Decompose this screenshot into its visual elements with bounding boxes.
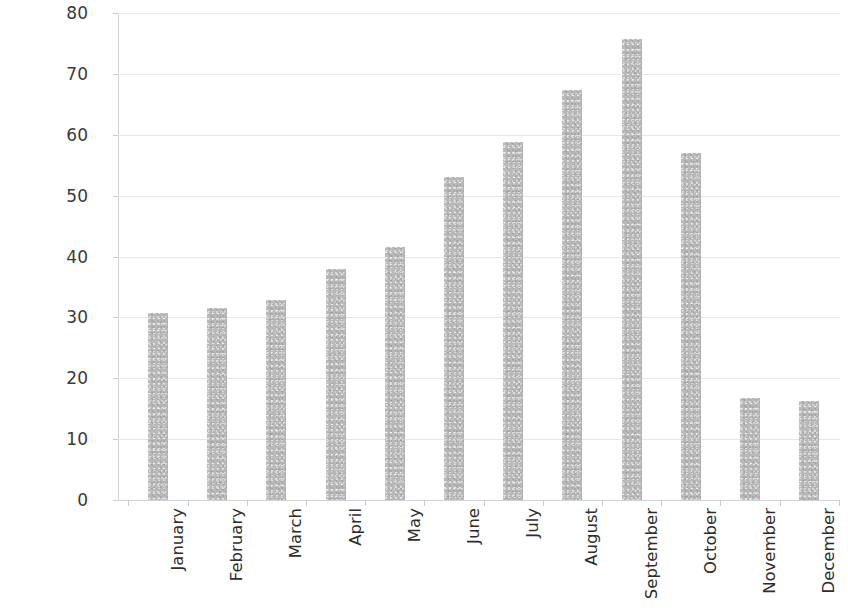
y-tick-label: 30 — [28, 307, 88, 327]
x-tick-label: August — [581, 508, 603, 615]
x-tick-label: September — [641, 508, 663, 615]
x-tick-mark — [247, 500, 248, 506]
bar — [326, 269, 346, 500]
y-tick-mark — [113, 439, 118, 440]
y-tick-mark — [113, 135, 118, 136]
y-tick-label: 10 — [28, 429, 88, 449]
x-tick-label: June — [463, 508, 485, 615]
x-tick-mark — [780, 500, 781, 506]
bar — [266, 300, 286, 500]
x-tick-label: December — [818, 508, 840, 615]
y-tick-label: 60 — [28, 125, 88, 145]
gridline — [118, 196, 840, 197]
x-tick-label: February — [226, 508, 248, 615]
x-tick-label: April — [345, 508, 367, 615]
bar — [503, 142, 523, 500]
bar — [562, 90, 582, 500]
y-tick-label: 50 — [28, 186, 88, 206]
y-tick-label: 40 — [28, 247, 88, 267]
bar — [622, 39, 642, 500]
bar — [444, 177, 464, 500]
bar — [207, 308, 227, 500]
x-tick-mark — [720, 500, 721, 506]
y-tick-label: 80 — [28, 3, 88, 23]
y-tick-label: 0 — [28, 490, 88, 510]
x-tick-label: July — [522, 508, 544, 615]
y-tick-mark — [113, 74, 118, 75]
gridline — [118, 257, 840, 258]
x-tick-mark — [839, 500, 840, 506]
bar — [148, 313, 168, 500]
x-tick-mark — [602, 500, 603, 506]
y-tick-mark — [113, 500, 118, 501]
x-tick-mark — [424, 500, 425, 506]
x-tick-mark — [188, 500, 189, 506]
y-tick-mark — [113, 317, 118, 318]
bar-chart: Percentage of Households 807060504030201… — [0, 0, 848, 615]
x-tick-mark — [543, 500, 544, 506]
x-tick-label: March — [285, 508, 307, 615]
y-tick-mark — [113, 13, 118, 14]
y-tick-mark — [113, 378, 118, 379]
x-tick-label: May — [404, 508, 426, 615]
y-tick-label: 20 — [28, 368, 88, 388]
bar — [740, 398, 760, 500]
x-tick-mark — [306, 500, 307, 506]
x-tick-mark — [128, 500, 129, 506]
bar — [799, 401, 819, 500]
x-tick-mark — [661, 500, 662, 506]
x-tick-label: November — [759, 508, 781, 615]
y-tick-label: 70 — [28, 64, 88, 84]
bar — [385, 247, 405, 500]
x-tick-mark — [484, 500, 485, 506]
y-tick-mark — [113, 257, 118, 258]
gridline — [118, 135, 840, 136]
y-tick-mark — [113, 196, 118, 197]
gridline — [118, 500, 840, 501]
gridline — [118, 74, 840, 75]
x-tick-label: October — [700, 508, 722, 615]
gridline — [118, 13, 840, 14]
x-tick-mark — [365, 500, 366, 506]
bar — [681, 153, 701, 500]
plot-area: 80706050403020100 — [118, 13, 840, 500]
x-tick-label: January — [167, 508, 189, 615]
